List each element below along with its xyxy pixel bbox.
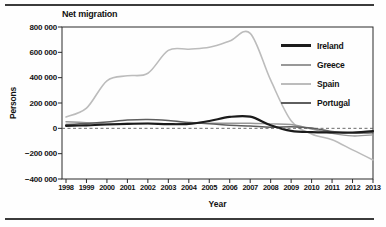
x-tick-label: 1998	[55, 183, 77, 192]
x-tick-label: 2005	[198, 183, 220, 192]
x-tick-label: 1999	[75, 183, 97, 192]
y-tick-label: 600 000	[8, 48, 57, 57]
legend-item-greece: Greece	[281, 55, 350, 74]
x-axis-label: Year	[62, 199, 373, 209]
x-tick-label: 2009	[280, 183, 302, 192]
legend-label-spain: Spain	[317, 79, 339, 89]
x-tick-label: 2008	[260, 183, 282, 192]
spain-line-swatch	[281, 83, 311, 85]
migration-line-chart	[0, 0, 386, 227]
legend-item-portugal: Portugal	[281, 93, 350, 112]
x-tick-label: 2010	[301, 183, 323, 192]
legend: Ireland Greece Spain Portugal	[281, 36, 350, 112]
y-tick-label: −400 000	[8, 175, 57, 184]
y-tick-label: 0	[8, 124, 57, 133]
y-tick-label: −200 000	[8, 149, 57, 158]
portugal-line	[66, 119, 373, 133]
legend-label-ireland: Ireland	[317, 41, 343, 51]
x-tick-label: 2007	[239, 183, 261, 192]
x-tick-label: 2011	[321, 183, 343, 192]
x-tick-label: 2000	[96, 183, 118, 192]
legend-label-portugal: Portugal	[317, 98, 350, 108]
y-tick-label: 800 000	[8, 23, 57, 32]
x-tick-label: 2003	[157, 183, 179, 192]
x-tick-label: 2001	[116, 183, 138, 192]
legend-label-greece: Greece	[317, 60, 345, 70]
ireland-line-swatch	[281, 44, 311, 47]
portugal-line-swatch	[281, 102, 311, 104]
y-tick-label: 200 000	[8, 99, 57, 108]
x-tick-label: 2002	[137, 183, 159, 192]
legend-item-spain: Spain	[281, 74, 350, 93]
x-tick-label: 2006	[219, 183, 241, 192]
net-migration-figure: Net migration Persons 800 000600 000400 …	[0, 0, 386, 227]
greece-line-swatch	[281, 64, 311, 66]
x-tick-label: 2012	[342, 183, 364, 192]
legend-item-ireland: Ireland	[281, 36, 350, 55]
y-tick-label: 400 000	[8, 73, 57, 82]
x-tick-label: 2004	[178, 183, 200, 192]
x-tick-label: 2013	[362, 183, 384, 192]
